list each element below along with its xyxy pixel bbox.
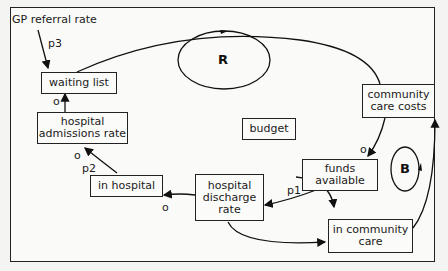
p3-label: p3 xyxy=(48,38,62,50)
node-budget[interactable]: budget xyxy=(242,118,296,140)
polarity-o-funds: o xyxy=(360,144,367,156)
p2-label: p2 xyxy=(82,163,96,175)
polarity-o-waiting: o xyxy=(53,96,60,108)
node-in-hospital[interactable]: in hospital xyxy=(90,175,163,197)
arrow-discharge-to-community-care xyxy=(228,222,325,243)
node-in-community-care[interactable]: in community care xyxy=(328,219,413,253)
node-funds-available[interactable]: funds available xyxy=(302,159,378,191)
node-community-care-costs[interactable]: community care costs xyxy=(362,84,435,118)
reinforcing-loop-label: R xyxy=(218,52,228,67)
node-waiting-list[interactable]: waiting list xyxy=(41,72,117,94)
balancing-loop-label: B xyxy=(400,161,410,176)
gp-referral-rate-label: GP referral rate xyxy=(12,14,97,26)
node-hospital-discharge-rate[interactable]: hospital discharge rate xyxy=(195,174,264,221)
arrow-community-care-to-costs xyxy=(413,120,435,228)
arrow-discharge-to-in-hospital xyxy=(164,194,195,195)
polarity-o-in-hospital: o xyxy=(162,202,169,214)
polarity-o-admissions: o xyxy=(74,150,81,162)
arrow-waiting-list-to-costs xyxy=(77,36,380,84)
node-hospital-admissions-rate[interactable]: hospital admissions rate xyxy=(37,112,128,144)
p1-label: p1 xyxy=(287,185,301,197)
arrow-gp-to-waiting-list xyxy=(38,30,48,68)
arrow-costs-to-funds xyxy=(368,118,385,156)
